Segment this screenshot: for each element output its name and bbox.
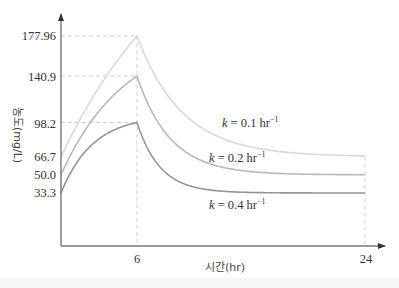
series-label-k04: k = 0.4 hr−1 <box>209 197 266 212</box>
reference-lines <box>61 36 365 246</box>
series-curve-k01 <box>61 36 365 157</box>
y-tick-label: 33.3 <box>34 186 56 200</box>
y-tick-label: 66.7 <box>34 150 56 164</box>
y-tick-label: 98.2 <box>34 117 56 131</box>
y-tick-labels: 177.96 140.9 98.2 66.7 50.0 33.3 <box>22 29 56 200</box>
x-tick-label: 24 <box>360 252 373 266</box>
y-tick-label: 140.9 <box>28 70 56 84</box>
y-tick-label: 50.0 <box>34 168 56 182</box>
x-tick-label: 6 <box>134 252 140 266</box>
series-curves <box>61 36 365 193</box>
series-label-k02: k = 0.2 hr−1 <box>209 150 266 165</box>
y-axis-title: 농도(mg/L) <box>11 107 24 163</box>
bottom-strip <box>0 278 399 288</box>
x-axis-title: 시간(hr) <box>205 261 245 274</box>
y-tick-label: 177.96 <box>22 29 56 43</box>
series-label-k01: k = 0.1 hr−1 <box>222 115 279 130</box>
concentration-time-chart: 177.96 140.9 98.2 66.7 50.0 33.3 6 24 시간… <box>0 0 399 288</box>
